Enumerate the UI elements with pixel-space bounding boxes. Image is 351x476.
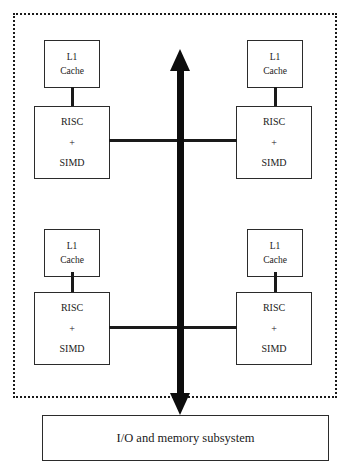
core-label-line3: SIMD (261, 342, 286, 356)
cache-core-connector-upper-right (274, 87, 277, 107)
core-label-line1: RISC (263, 301, 285, 315)
bus-arrowhead-down-icon (170, 393, 190, 415)
diagram-canvas: L1 Cache RISC + SIMD L1 Cache RISC + SIM… (0, 0, 351, 476)
cache-core-connector-lower-left (71, 272, 74, 293)
bus-arrowhead-up-icon (170, 49, 190, 71)
core-label-line2: + (69, 136, 75, 150)
io-memory-subsystem-box: I/O and memory subsystem (42, 415, 329, 461)
core-label-line2: + (69, 322, 75, 336)
core-label-line3: SIMD (59, 342, 84, 356)
l1-cache-box-lower-right: L1 Cache (247, 229, 303, 277)
l1-cache-box-upper-left: L1 Cache (44, 40, 100, 88)
io-memory-subsystem-label: I/O and memory subsystem (117, 431, 255, 446)
core-label-line3: SIMD (59, 156, 84, 170)
l1-cache-label-line2: Cache (60, 254, 84, 267)
core-label-line1: RISC (263, 115, 285, 129)
l1-cache-box-lower-left: L1 Cache (44, 229, 100, 277)
l1-cache-label-line2: Cache (60, 65, 84, 78)
l1-cache-label-line1: L1 (67, 51, 78, 64)
core-bus-connector-top (109, 139, 237, 142)
l1-cache-label-line1: L1 (67, 240, 78, 253)
core-bus-connector-bottom (109, 326, 237, 329)
l1-cache-label-line1: L1 (270, 51, 281, 64)
l1-cache-label-line1: L1 (270, 240, 281, 253)
l1-cache-box-upper-right: L1 Cache (247, 40, 303, 88)
l1-cache-label-line2: Cache (263, 254, 287, 267)
risc-simd-core-box-lower-left: RISC + SIMD (34, 292, 110, 365)
core-label-line3: SIMD (261, 156, 286, 170)
cache-core-connector-lower-right (274, 272, 277, 293)
cache-core-connector-upper-left (71, 87, 74, 107)
risc-simd-core-box-upper-right: RISC + SIMD (236, 106, 312, 179)
risc-simd-core-box-lower-right: RISC + SIMD (236, 292, 312, 365)
core-label-line2: + (271, 322, 277, 336)
risc-simd-core-box-upper-left: RISC + SIMD (34, 106, 110, 179)
system-bus-shaft (177, 64, 184, 398)
core-label-line2: + (271, 136, 277, 150)
l1-cache-label-line2: Cache (263, 65, 287, 78)
core-label-line1: RISC (61, 115, 83, 129)
core-label-line1: RISC (61, 301, 83, 315)
